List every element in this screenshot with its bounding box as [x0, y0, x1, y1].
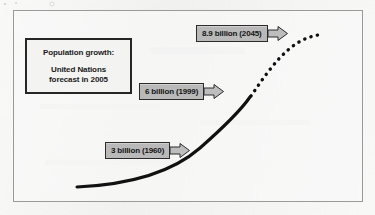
diagram-page: Population growth: United Nations foreca…: [0, 0, 375, 215]
callout-2045-label: 8.9 billion (2045): [202, 29, 262, 38]
callout-2045: 8.9 billion (2045): [196, 25, 289, 42]
callout-1960-label: 3 billion (1960): [111, 146, 164, 155]
legend-box: Population growth: United Nations foreca…: [25, 38, 132, 94]
block-arrow-right-icon: [203, 83, 225, 100]
callout-2045-box: 8.9 billion (2045): [196, 25, 268, 42]
callout-1960-box: 3 billion (1960): [105, 142, 170, 159]
callout-1999-box: 6 billion (1999): [139, 83, 204, 100]
block-arrow-right-icon: [169, 142, 191, 159]
population-curve-svg: [0, 0, 375, 215]
callout-1999-label: 6 billion (1999): [145, 87, 198, 96]
callout-1960: 3 billion (1960): [105, 142, 191, 159]
legend-source-line2: forecast in 2005: [49, 75, 108, 85]
block-arrow-right-icon: [267, 25, 289, 42]
legend-title: Population growth:: [43, 48, 114, 58]
callout-1999: 6 billion (1999): [139, 83, 225, 100]
forecast-curve-dotted: [251, 35, 318, 96]
legend-source-line1: United Nations: [49, 65, 108, 75]
